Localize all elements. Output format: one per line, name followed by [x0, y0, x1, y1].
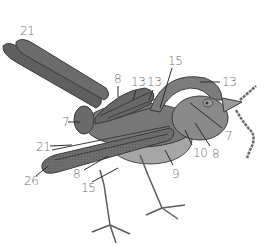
label-13-neck: 13: [222, 76, 236, 88]
label-26: 26: [24, 175, 38, 187]
label-13-b: 13: [147, 76, 161, 88]
label-13-a: 13: [131, 76, 145, 88]
bird-anatomy-diagram: 21 8 13 13 15 13 7 7 10 8 9 21 26 8 15: [0, 0, 273, 246]
bird-illustration: [0, 0, 273, 246]
label-8-upper: 8: [114, 73, 121, 85]
label-7-head: 7: [225, 130, 232, 142]
label-15-lower: 15: [81, 182, 95, 194]
worm: [236, 86, 256, 158]
label-7-rump: 7: [62, 116, 69, 128]
label-9: 9: [172, 168, 179, 180]
tail-feathers: [3, 39, 109, 108]
label-10: 10: [193, 147, 207, 159]
label-15-upper: 15: [168, 55, 182, 67]
label-8-head: 8: [212, 148, 219, 160]
label-8-lower: 8: [73, 168, 80, 180]
label-21-primaries: 21: [36, 141, 50, 153]
label-21-tail: 21: [20, 25, 34, 37]
